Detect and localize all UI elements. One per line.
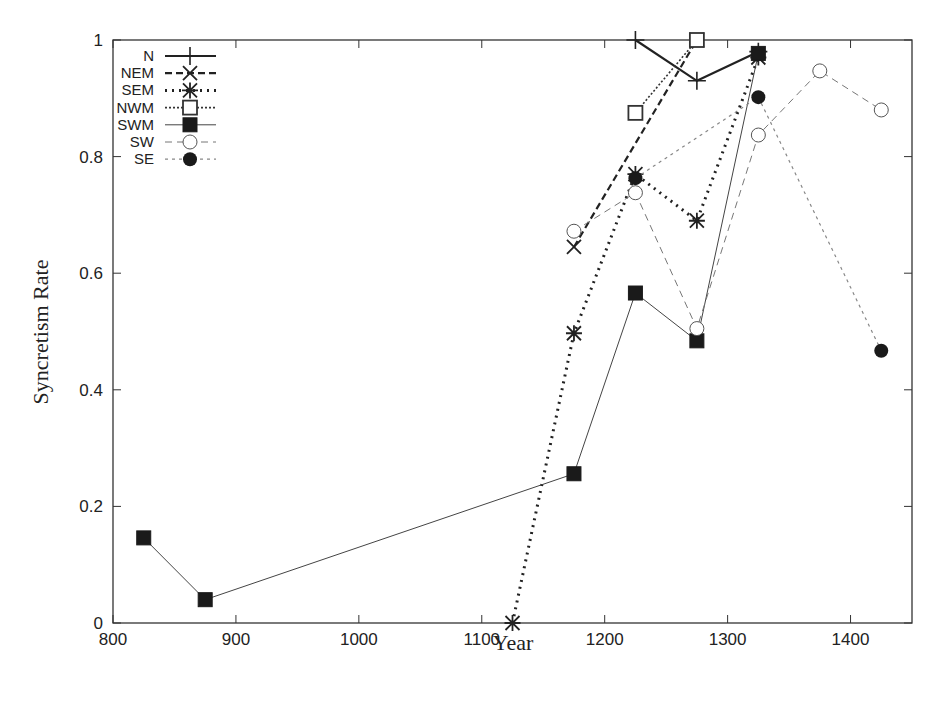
legend-label: SWM: [117, 116, 154, 133]
filled-square-marker: [183, 118, 197, 132]
plus-marker: [626, 31, 644, 49]
open-circle-marker: [690, 322, 704, 336]
open-square-marker: [690, 33, 704, 47]
x-tick-label: 1000: [340, 630, 378, 649]
x-tick-label: 900: [222, 630, 250, 649]
line-chart: 8009001000110012001300140000.20.40.60.81…: [0, 0, 945, 704]
series-sw: [567, 64, 888, 336]
x-tick-label: 1400: [832, 630, 870, 649]
open-circle-marker: [813, 64, 827, 78]
star-marker: [689, 213, 705, 229]
x-tick-label: 800: [99, 630, 127, 649]
y-tick-label: 0.6: [79, 264, 103, 283]
filled-square-marker: [751, 46, 765, 60]
legend-item-sem: SEM: [121, 81, 216, 98]
legend-item-n: N: [143, 47, 216, 65]
legend-label: N: [143, 47, 154, 64]
legend-item-nwm: NWM: [117, 99, 217, 116]
series-swm: [137, 46, 766, 606]
filled-square-marker: [198, 593, 212, 607]
series-line: [144, 53, 759, 599]
series-sem: [505, 49, 767, 631]
star-marker: [182, 82, 198, 98]
axes: 8009001000110012001300140000.20.40.60.81: [79, 31, 912, 649]
filled-circle-marker: [183, 152, 197, 166]
legend-label: NWM: [117, 99, 155, 116]
legend-item-nem: NEM: [121, 64, 216, 81]
plus-marker: [181, 47, 199, 65]
x-tick-label: 1200: [586, 630, 624, 649]
x-marker: [567, 240, 581, 254]
x-axis-title: Year: [493, 630, 534, 655]
open-circle-marker: [751, 128, 765, 142]
filled-square-marker: [628, 286, 642, 300]
y-tick-label: 0.2: [79, 497, 103, 516]
series-nwm: [628, 33, 703, 120]
open-circle-marker: [628, 186, 642, 200]
y-tick-label: 1: [94, 31, 103, 50]
star-marker: [566, 325, 582, 341]
series-line: [574, 40, 697, 247]
open-circle-marker: [874, 103, 888, 117]
x-tick-label: 1300: [709, 630, 747, 649]
y-tick-label: 0.4: [79, 381, 103, 400]
y-axis-title: Syncretism Rate: [28, 260, 53, 405]
y-tick-label: 0.8: [79, 148, 103, 167]
series-nem: [567, 33, 704, 254]
plus-marker: [688, 72, 706, 90]
y-tick-label: 0: [94, 614, 103, 633]
legend-label: NEM: [121, 64, 154, 81]
legend-item-se: SE: [134, 150, 216, 167]
legend-label: SE: [134, 150, 154, 167]
series-line: [574, 71, 881, 329]
open-circle-marker: [567, 224, 581, 238]
filled-square-marker: [137, 531, 151, 545]
legend-item-swm: SWM: [117, 116, 216, 133]
filled-circle-marker: [751, 90, 765, 104]
series-line: [635, 40, 696, 113]
plot-frame: [113, 40, 912, 623]
legend-label: SW: [130, 133, 155, 150]
open-circle-marker: [183, 135, 197, 149]
legend-label: SEM: [121, 81, 154, 98]
series-layer: [137, 31, 889, 631]
open-square-marker: [183, 101, 197, 115]
x-marker: [183, 66, 197, 80]
filled-circle-marker: [628, 171, 642, 185]
legend-item-sw: SW: [130, 133, 216, 150]
legend: NNEMSEMNWMSWMSWSE: [117, 47, 217, 167]
star-marker: [505, 615, 521, 631]
filled-square-marker: [567, 467, 581, 481]
filled-circle-marker: [874, 344, 888, 358]
open-square-marker: [628, 106, 642, 120]
